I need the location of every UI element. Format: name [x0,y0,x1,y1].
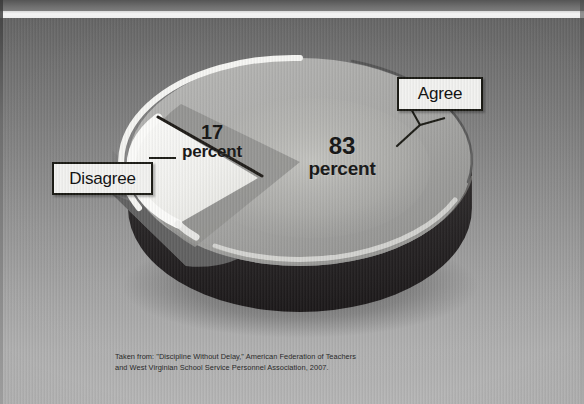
data-label-agree-value: 83 [287,134,397,159]
photo-left-edge [0,0,3,404]
data-label-disagree-value: 17 [168,122,256,143]
callout-agree: Agree [397,77,483,111]
data-label-disagree: 17 percent [168,122,256,160]
callout-agree-label: Agree [418,84,462,104]
photo-top-band [0,0,584,11]
citation-line-2: and West Virginian School Service Person… [115,362,475,373]
callout-disagree-label: Disagree [69,169,135,189]
data-label-agree-unit: percent [287,159,397,179]
citation-line-1: Taken from: "Discipline Without Delay," … [115,351,475,362]
slide-canvas: 17 percent 83 percent Disagree Agree Tak… [0,18,584,404]
callout-disagree: Disagree [52,162,153,195]
data-label-disagree-unit: percent [168,143,256,161]
data-label-agree: 83 percent [287,134,397,178]
pie-chart-graphic [0,18,584,404]
pie-chart: 17 percent 83 percent Disagree Agree [0,18,584,404]
photo-right-edge [580,0,584,404]
source-citation: Taken from: "Discipline Without Delay," … [115,351,475,373]
slide-photo: 17 percent 83 percent Disagree Agree Tak… [0,0,584,404]
photo-white-divider [0,11,584,18]
